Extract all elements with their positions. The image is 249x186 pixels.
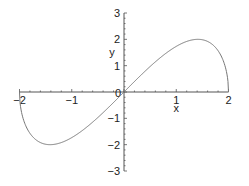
y-tick-label: −2 xyxy=(107,139,120,151)
y-tick-label: 1 xyxy=(114,60,120,72)
y-axis-label: y xyxy=(109,46,115,58)
y-tick-label: 3 xyxy=(114,7,120,19)
x-axis-label: x xyxy=(174,102,180,114)
y-tick-label: 2 xyxy=(114,33,120,45)
x-tick-label: 2 xyxy=(225,94,231,106)
y-tick-label: −1 xyxy=(107,112,120,124)
x-tick-label: −1 xyxy=(65,94,78,106)
plot-canvas: −2−112−3−2−11230 x y xyxy=(0,0,249,186)
y-tick-label: −3 xyxy=(107,165,120,177)
origin-label: 0 xyxy=(115,87,121,99)
